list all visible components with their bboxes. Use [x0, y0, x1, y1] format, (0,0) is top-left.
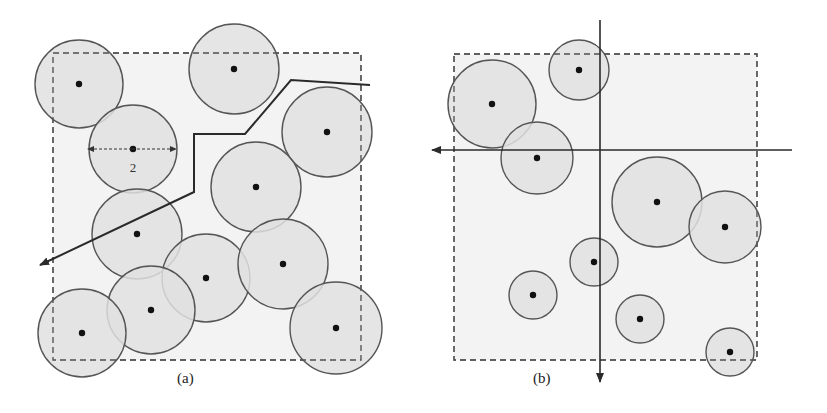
sensor-node-dot — [76, 81, 82, 87]
sensor-node-dot — [654, 199, 660, 205]
panel-a-caption: (a) — [177, 370, 194, 387]
sensor-node-dot — [134, 231, 140, 237]
sensor-node-dot — [530, 292, 536, 298]
sensor-coverage-figure: 2 — [0, 0, 827, 413]
sensor-node-dot — [591, 259, 597, 265]
sensor-node-dot — [280, 261, 286, 267]
sensor-node-dot — [637, 316, 643, 322]
sensor-node-dot — [148, 307, 154, 313]
sensor-node-dot — [231, 66, 237, 72]
sensing-range-label: 2 — [130, 160, 137, 175]
sensor-node-dot — [727, 349, 733, 355]
sensor-node-dot — [79, 330, 85, 336]
sensor-node-dot — [333, 325, 339, 331]
sensor-node-dot — [722, 224, 728, 230]
sensor-node-dot — [203, 275, 209, 281]
sensor-node-dot — [489, 101, 495, 107]
panel-b — [432, 20, 792, 382]
sensor-node-dot — [324, 129, 330, 135]
panel-b-caption: (b) — [533, 370, 551, 387]
sensor-node-dot — [534, 155, 540, 161]
panel-a: 2 — [35, 24, 382, 377]
sensor-node-dot — [253, 184, 259, 190]
sensor-node-dot — [576, 67, 582, 73]
